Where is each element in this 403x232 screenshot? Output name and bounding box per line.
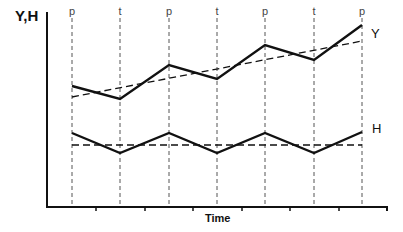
x-axis-line (47, 207, 387, 211)
phase-marker: p (359, 5, 365, 17)
phase-guide-lines (72, 18, 362, 207)
phase-marker: t (215, 5, 218, 17)
phase-labels: ptptptp (69, 5, 365, 17)
y-axis-label: Y,H (15, 7, 38, 24)
series-h (72, 132, 362, 153)
series-label-h: H (372, 121, 381, 136)
x-axis-label: Time (205, 212, 230, 224)
phase-marker: p (69, 5, 75, 17)
phase-marker: t (118, 5, 121, 17)
phase-marker: p (166, 5, 172, 17)
series-label-y: Y (371, 26, 380, 41)
phase-marker: t (312, 5, 315, 17)
business-cycle-diagram: ptptptp Y,H Time Y H (0, 0, 403, 232)
phase-marker: p (262, 5, 268, 17)
